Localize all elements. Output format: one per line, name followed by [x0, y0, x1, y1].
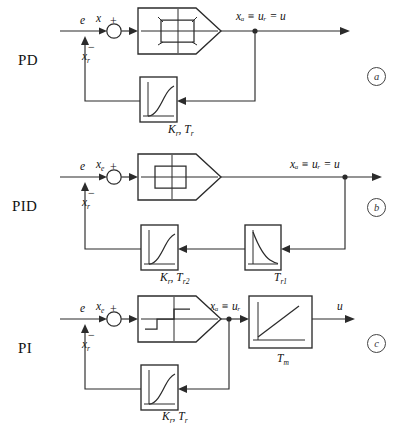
row-pid-wires [0, 146, 410, 292]
diagram-row-pi: PI c e + − xe xr xₐ ≡ uᵣ u Tm Kr, Tr [0, 292, 410, 437]
row-pd-wires [0, 0, 410, 146]
row-pi-wires [0, 292, 410, 437]
diagram-row-pd: PD a e + − x xr xₐ ≡ uᵣ = u −a b −b a Kr… [0, 0, 410, 146]
diagram-row-pid: PID b e + − xe xr xₐ ≡ uᵣ = u Kr, Tr2 Tr… [0, 146, 410, 292]
